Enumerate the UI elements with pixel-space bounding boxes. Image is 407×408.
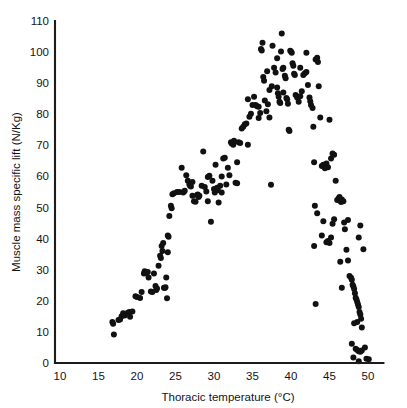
data-point — [277, 100, 283, 106]
data-point — [327, 117, 333, 123]
data-point — [366, 356, 372, 362]
data-point — [263, 108, 269, 114]
data-point — [349, 341, 355, 347]
data-point — [110, 321, 116, 327]
x-axis-tick-group: 101520253035404550 — [54, 370, 375, 382]
data-point — [285, 101, 291, 107]
data-point — [139, 289, 145, 295]
data-point — [331, 152, 337, 158]
data-point — [320, 218, 326, 224]
data-point — [219, 173, 225, 179]
data-point — [165, 249, 171, 255]
data-point — [174, 189, 180, 195]
data-point — [317, 114, 323, 120]
data-point — [270, 43, 276, 49]
x-tick-label: 30 — [208, 370, 221, 382]
data-point — [356, 234, 362, 240]
data-point — [342, 226, 348, 232]
data-point — [209, 178, 215, 184]
y-tick-label: 60 — [36, 170, 49, 182]
data-point — [305, 82, 311, 88]
x-tick-label: 15 — [92, 370, 105, 382]
data-point — [245, 96, 251, 102]
data-point — [290, 63, 296, 69]
x-tick-label: 25 — [169, 370, 182, 382]
scatter-plot: 0102030405060708090100110 10152025303540… — [0, 0, 407, 408]
data-point — [316, 83, 322, 89]
data-point — [189, 179, 195, 185]
data-point — [315, 59, 321, 65]
data-point — [259, 48, 265, 54]
data-point — [219, 190, 225, 196]
x-tick-label: 20 — [131, 370, 144, 382]
data-point — [217, 183, 223, 189]
y-tick-label: 100 — [30, 46, 49, 58]
data-point — [292, 72, 298, 78]
y-tick-label: 30 — [36, 264, 49, 276]
data-point — [160, 240, 166, 246]
data-point — [251, 94, 257, 100]
data-point — [274, 55, 280, 61]
data-point — [129, 308, 135, 314]
data-point — [325, 164, 331, 170]
data-point — [350, 354, 356, 360]
data-point — [256, 115, 262, 121]
x-tick-label: 50 — [362, 370, 375, 382]
data-point — [280, 90, 286, 96]
y-tick-label: 90 — [36, 77, 49, 89]
y-axis-title: Muscle mass specific lift (N/Kg) — [10, 112, 22, 272]
data-point — [303, 69, 309, 75]
data-point — [166, 213, 172, 219]
y-tick-label: 0 — [43, 357, 49, 369]
data-point — [265, 101, 271, 107]
data-point — [345, 217, 351, 223]
data-point — [182, 188, 188, 194]
data-point — [213, 162, 219, 168]
y-axis-tick-group: 0102030405060708090100110 — [30, 15, 55, 369]
data-point — [328, 234, 334, 240]
data-point — [200, 149, 206, 155]
data-point — [289, 50, 295, 56]
data-point — [340, 198, 346, 204]
data-point — [266, 87, 272, 93]
data-point — [256, 104, 262, 110]
data-point — [357, 223, 363, 229]
data-point — [159, 248, 165, 254]
y-tick-label: 10 — [36, 326, 49, 338]
data-point — [203, 188, 209, 194]
data-point — [226, 172, 232, 178]
data-point — [296, 99, 302, 105]
data-point — [234, 159, 240, 165]
data-point — [196, 193, 202, 199]
data-point — [310, 105, 316, 111]
data-point — [283, 75, 289, 81]
data-point — [327, 240, 333, 246]
data-point — [351, 320, 357, 326]
data-point — [362, 344, 368, 350]
data-point — [331, 216, 337, 222]
data-point — [163, 275, 169, 281]
data-point — [158, 255, 164, 261]
data-point — [225, 165, 231, 171]
data-point — [359, 325, 365, 331]
data-point — [205, 198, 211, 204]
data-point — [137, 295, 143, 301]
data-point — [156, 263, 162, 269]
data-point — [278, 48, 284, 54]
data-point — [273, 70, 279, 76]
data-point — [333, 178, 339, 184]
data-point — [223, 182, 229, 188]
data-point — [162, 284, 168, 290]
data-point — [339, 285, 345, 291]
data-point-group — [109, 30, 371, 364]
data-point — [152, 283, 158, 289]
data-point — [337, 259, 343, 265]
data-point — [234, 180, 240, 186]
data-point — [345, 257, 351, 263]
data-point — [264, 68, 270, 74]
y-tick-label: 50 — [36, 202, 49, 214]
data-point — [279, 30, 285, 36]
data-point — [146, 275, 152, 281]
y-tick-label: 110 — [31, 15, 49, 27]
x-axis-title: Thoracic temperature (°C) — [161, 391, 294, 403]
